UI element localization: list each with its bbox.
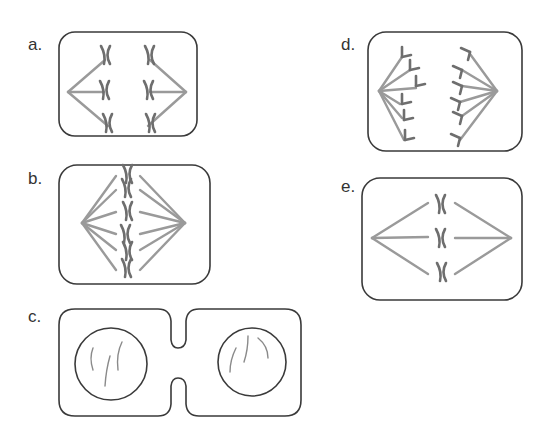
chromosomes-e [436, 195, 446, 281]
cell-b [59, 165, 210, 284]
spindle-fibers-d [379, 54, 497, 140]
spindle-fibers-b [82, 176, 185, 270]
nucleus-left [75, 328, 147, 400]
nucleus-right [218, 328, 286, 396]
cell-division-diagram [0, 0, 547, 422]
chromosomes-d [402, 47, 470, 146]
cell-a [59, 32, 197, 136]
spindle-fibers-a [68, 60, 186, 126]
chromosomes-b [121, 165, 132, 277]
cell-e [362, 178, 522, 300]
cell-c [59, 309, 301, 416]
chromosomes-a [100, 46, 155, 132]
cell-d [368, 32, 522, 151]
